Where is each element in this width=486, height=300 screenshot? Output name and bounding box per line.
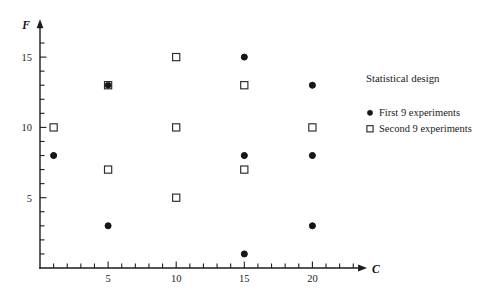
scatter-plot: 510152051015 FC Statistical designFirst … — [0, 0, 486, 300]
data-point-first-9 — [51, 153, 57, 159]
y-axis-tick-label: 10 — [22, 122, 33, 133]
x-axis-label: C — [372, 263, 380, 275]
legend-entry-label: Second 9 experiments — [379, 123, 472, 134]
data-point-second-9 — [50, 124, 57, 131]
axes-layer — [37, 19, 367, 271]
x-axis-tick-label: 20 — [307, 273, 318, 284]
y-axis-arrow-icon — [37, 19, 44, 28]
data-point-second-9 — [173, 54, 180, 61]
legend-marker-filled-circle-icon — [367, 110, 372, 115]
y-axis-tick-label: 5 — [27, 193, 32, 204]
data-point-second-9 — [173, 124, 180, 131]
ticks-layer — [40, 43, 353, 268]
data-point-first-9 — [241, 153, 247, 159]
data-point-first-9 — [241, 251, 247, 257]
tick-labels-layer: 510152051015 — [22, 52, 318, 284]
x-axis-tick-label: 15 — [239, 273, 250, 284]
y-axis-tick-label: 15 — [22, 52, 33, 63]
data-point-second-9 — [241, 82, 248, 89]
data-point-first-9 — [309, 82, 315, 88]
data-point-second-9 — [173, 194, 180, 201]
y-axis-label: F — [21, 19, 30, 31]
data-point-second-9 — [241, 166, 248, 173]
chart-page: 510152051015 FC Statistical designFirst … — [0, 0, 486, 300]
data-point-first-9 — [105, 223, 111, 229]
x-axis-tick-label: 10 — [171, 273, 182, 284]
data-point-first-9 — [309, 153, 315, 159]
data-point-first-9 — [241, 54, 247, 60]
data-point-second-9 — [309, 124, 316, 131]
x-axis-arrow-icon — [358, 265, 367, 272]
legend-title: Statistical design — [366, 72, 440, 84]
axis-names-layer: FC — [21, 19, 380, 274]
legend-layer: Statistical designFirst 9 experimentsSec… — [366, 72, 472, 134]
data-point-first-9 — [105, 82, 111, 88]
legend-entry-label: First 9 experiments — [379, 107, 460, 118]
data-point-first-9 — [309, 223, 315, 229]
legend-marker-open-square-icon — [367, 126, 373, 132]
data-point-second-9 — [105, 166, 112, 173]
data-points-layer — [50, 54, 316, 257]
x-axis-tick-label: 5 — [105, 273, 110, 284]
